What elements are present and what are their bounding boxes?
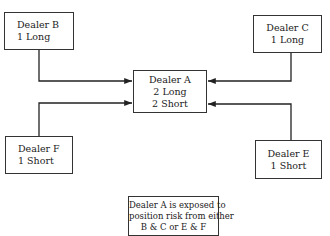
dealer-c-name: Dealer C — [254, 22, 321, 34]
note-line-1: Dealer A is exposed to — [129, 200, 218, 211]
dealer-a-long: 2 Long — [134, 86, 206, 98]
dealer-f-box: Dealer F 1 Short — [5, 136, 73, 174]
dealer-f-name: Dealer F — [18, 143, 72, 155]
dealer-e-position: 1 Short — [256, 160, 321, 172]
exposure-note-box: Dealer A is exposed to position risk fro… — [128, 196, 219, 236]
edge-c-to-a — [208, 53, 291, 81]
dealer-b-name: Dealer B — [17, 19, 73, 31]
dealer-a-name: Dealer A — [134, 74, 206, 86]
dealer-b-box: Dealer B 1 Long — [4, 12, 74, 50]
dealer-f-position: 1 Short — [18, 155, 72, 167]
edge-b-to-a — [39, 50, 132, 81]
dealer-c-box: Dealer C 1 Long — [253, 15, 322, 53]
dealer-e-name: Dealer E — [256, 148, 321, 160]
dealer-a-box: Dealer A 2 Long 2 Short — [133, 70, 207, 113]
note-line-2: position risk from either — [129, 211, 218, 222]
dealer-e-box: Dealer E 1 Short — [255, 140, 322, 179]
dealer-b-position: 1 Long — [17, 31, 73, 43]
edge-f-to-a — [39, 103, 132, 136]
dealer-a-short: 2 Short — [134, 98, 206, 110]
edge-e-to-a — [208, 104, 291, 140]
dealer-c-position: 1 Long — [254, 34, 321, 46]
note-line-3: B & C or E & F — [129, 222, 218, 233]
